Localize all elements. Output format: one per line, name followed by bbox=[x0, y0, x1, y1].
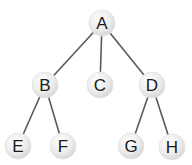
node-label: H bbox=[166, 138, 178, 157]
node-b: B bbox=[32, 72, 58, 98]
node-label: B bbox=[39, 76, 50, 95]
tree-diagram: ABCDEFGH bbox=[0, 0, 192, 165]
node-a: A bbox=[89, 10, 115, 36]
node-h: H bbox=[159, 134, 185, 160]
node-f: F bbox=[50, 133, 76, 159]
node-label: F bbox=[58, 137, 68, 156]
node-label: D bbox=[146, 76, 158, 95]
node-label: G bbox=[124, 137, 137, 156]
node-g: G bbox=[118, 133, 144, 159]
nodes-group: ABCDEFGH bbox=[5, 10, 185, 160]
node-d: D bbox=[139, 72, 165, 98]
node-label: A bbox=[96, 14, 108, 33]
node-label: C bbox=[94, 76, 106, 95]
node-label: E bbox=[12, 137, 23, 156]
node-e: E bbox=[5, 133, 31, 159]
node-c: C bbox=[87, 72, 113, 98]
